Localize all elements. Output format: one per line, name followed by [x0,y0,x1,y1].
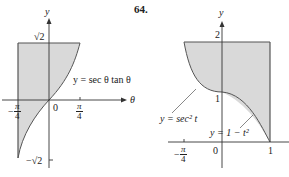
right-label-poly: y = 1 − t² [210,128,249,138]
right-tick-origin: 0 [213,146,218,156]
left-tick-neg-sqrt2: −√2 [26,156,42,166]
right-tick-x1: 1 [268,146,273,156]
left-tick-sqrt2: √2 [34,32,45,42]
left-tick-neg-pi-4: π4 [14,102,21,121]
problem-number: 64. [134,3,148,15]
right-y-arrow-icon [220,21,225,27]
left-tick-pi-4: π4 [76,102,83,121]
right-tick-neg-pi-4: π4 [180,145,187,164]
left-curve-label: y = sec θ tan θ [73,75,131,85]
left-x-arrow-icon [121,98,127,103]
left-y-arrow-icon [47,18,52,24]
figure-canvas [0,0,289,177]
right-tick-1: 1 [215,94,220,104]
right-tick-2: 2 [215,30,220,40]
left-x-axis-label: θ [130,95,135,105]
right-y-axis-label: y [219,8,223,18]
left-tick-origin: 0 [53,103,58,113]
left-y-axis-label: y [45,7,49,17]
right-label-sec2: y = sec² t [160,114,197,124]
